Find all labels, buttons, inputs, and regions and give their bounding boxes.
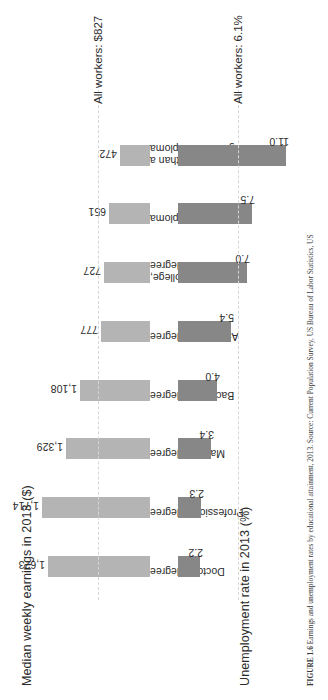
figure-screenshot: Median weekly earnings in 2013 ($) Unemp… bbox=[0, 0, 328, 700]
earnings-bar bbox=[66, 439, 150, 460]
earnings-bar-column: 651 bbox=[42, 192, 150, 236]
earnings-value-label: 1,108 bbox=[51, 383, 77, 395]
earnings-bar-column: 1,623 bbox=[42, 544, 150, 588]
dual-bar-chart-figure: Median weekly earnings in 2013 ($) Unemp… bbox=[0, 0, 328, 700]
earnings-reference-note: All workers: $827 bbox=[92, 16, 104, 104]
unemployment-bar bbox=[178, 497, 201, 518]
earnings-bar-column: 1,329 bbox=[42, 427, 150, 471]
unemployment-value-label: 11.0 bbox=[269, 136, 289, 148]
figure-caption-text: Earnings and unemployment rates by educa… bbox=[306, 445, 315, 644]
earnings-reference-line bbox=[98, 80, 99, 600]
unemployment-bar-column: 4.0 bbox=[178, 368, 286, 412]
earnings-value-label: 1,623 bbox=[18, 559, 44, 571]
earnings-bar bbox=[120, 145, 150, 166]
earnings-value-label: 472 bbox=[100, 148, 118, 160]
unemployment-reference-note: All workers: 6.1% bbox=[232, 15, 244, 104]
unemployment-value-label: 3.4 bbox=[200, 430, 215, 442]
earnings-bar-column: 777 bbox=[42, 309, 150, 353]
unemployment-bar bbox=[178, 439, 211, 460]
earnings-bar-column: 1,714 bbox=[42, 485, 150, 529]
unemployment-bar bbox=[178, 262, 247, 283]
earnings-bar bbox=[109, 204, 150, 225]
unemployment-bar-column: 2.3 bbox=[178, 485, 286, 529]
figure-number: FIGURE 1.6 bbox=[306, 646, 315, 686]
earnings-bar-column: 472 bbox=[42, 133, 150, 177]
unemployment-bar-column: 2.2 bbox=[178, 544, 286, 588]
unemployment-bar-column: 5.4 bbox=[178, 309, 286, 353]
unemployment-value-label: 7.5 bbox=[240, 195, 255, 207]
earnings-plot-area: 1,6231,7141,3291,108777727651472 bbox=[42, 118, 150, 588]
earnings-bar-column: 727 bbox=[42, 250, 150, 294]
unemployment-value-label: 4.0 bbox=[206, 371, 221, 383]
earnings-bar bbox=[101, 321, 150, 342]
unemployment-bar bbox=[178, 204, 252, 225]
unemployment-bar-column: 3.4 bbox=[178, 427, 286, 471]
earnings-bar bbox=[80, 380, 150, 401]
unemployment-bar-column: 11.0 bbox=[178, 133, 286, 177]
unemployment-bar bbox=[178, 321, 231, 342]
unemployment-reference-line bbox=[238, 80, 239, 600]
earnings-value-label: 1,714 bbox=[13, 500, 39, 512]
unemployment-plot-area: 2.22.33.44.05.47.07.511.0 bbox=[178, 118, 286, 588]
unemployment-bar-column: 7.5 bbox=[178, 192, 286, 236]
earnings-panel-title: Median weekly earnings in 2013 ($) bbox=[20, 485, 34, 686]
unemployment-value-label: 5.4 bbox=[219, 312, 234, 324]
category-label-band: Doctoral degreeProfessional degreeMaster… bbox=[150, 118, 178, 588]
unemployment-value-label: 2.2 bbox=[188, 547, 203, 559]
unemployment-value-label: 2.3 bbox=[189, 488, 204, 500]
figure-caption-source: Source: Current Population Survey, US Bu… bbox=[306, 234, 315, 443]
earnings-value-label: 777 bbox=[81, 324, 99, 336]
earnings-value-label: 1,329 bbox=[37, 442, 63, 454]
earnings-bar bbox=[104, 262, 150, 283]
figure-caption: FIGURE 1.6 Earnings and unemployment rat… bbox=[306, 14, 315, 686]
unemployment-bar-column: 7.0 bbox=[178, 250, 286, 294]
unemployment-bar bbox=[178, 556, 200, 577]
earnings-bar bbox=[42, 497, 150, 518]
earnings-bar-column: 1,108 bbox=[42, 368, 150, 412]
